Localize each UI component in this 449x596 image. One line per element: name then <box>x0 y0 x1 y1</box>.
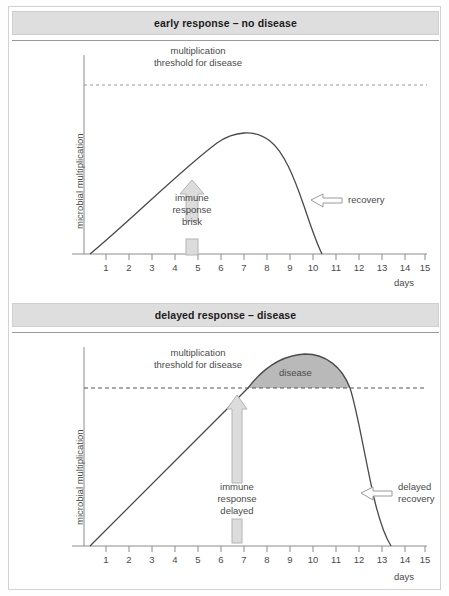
x-tick-marks <box>106 254 425 260</box>
panel-title-bar-early: early response – no disease <box>12 11 439 35</box>
x-tick-marks <box>106 546 425 552</box>
immune-response-caption-delayed: immune response delayed <box>197 481 277 517</box>
y-axis-label-delayed: microbial multiplication <box>74 429 85 525</box>
x-tick-label: 4 <box>168 554 182 565</box>
immune-line3: brisk <box>152 216 232 228</box>
x-tick-label: 2 <box>122 262 136 273</box>
y-axis-label-early: microbial multiplication <box>74 133 85 229</box>
x-tick-label: 10 <box>306 262 320 273</box>
immune-response-arrow-up <box>227 395 247 543</box>
x-tick-label: 5 <box>191 554 205 565</box>
panel-title-delayed: delayed response – disease <box>155 309 297 321</box>
x-tick-label: 2 <box>122 554 136 565</box>
threshold-caption-early: multiplication threshold for disease <box>108 45 288 69</box>
immune-line2: response <box>152 204 232 216</box>
panel-title-bar-delayed: delayed response – disease <box>12 303 439 327</box>
x-tick-label: 13 <box>375 554 389 565</box>
recovery-caption-early: recovery <box>348 194 384 206</box>
x-axis-title-early: days <box>394 277 414 288</box>
threshold-caption-line1: multiplication <box>108 45 288 57</box>
recovery-arrow-left <box>311 194 342 207</box>
x-tick-label: 8 <box>260 262 274 273</box>
threshold-caption-delayed: multiplication threshold for disease <box>108 347 288 371</box>
x-tick-label: 4 <box>168 262 182 273</box>
x-tick-label: 8 <box>260 554 274 565</box>
disease-label: disease <box>279 367 312 379</box>
threshold-caption-line2: threshold for disease <box>108 359 288 371</box>
x-axis-title-delayed: days <box>394 571 414 582</box>
x-tick-label: 9 <box>283 554 297 565</box>
delayed-recovery-line2: recovery <box>398 493 439 505</box>
immune-response-caption-early: immune response brisk <box>152 192 232 228</box>
immune-line1: immune <box>197 481 277 493</box>
delayed-recovery-line1: delayed <box>398 481 439 493</box>
panel-title-early: early response – no disease <box>154 17 297 29</box>
figure-container: early response – no disease <box>0 0 449 596</box>
x-tick-label: 7 <box>237 262 251 273</box>
immune-line3: delayed <box>197 505 277 517</box>
threshold-caption-line2: threshold for disease <box>108 57 288 69</box>
x-tick-label: 15 <box>418 262 432 273</box>
panel-delayed-response: delayed response – disease <box>9 299 442 591</box>
delayed-recovery-arrow-left <box>361 487 392 500</box>
x-tick-label: 7 <box>237 554 251 565</box>
x-tick-label: 13 <box>375 262 389 273</box>
x-tick-label: 11 <box>329 554 343 565</box>
x-tick-label: 12 <box>352 554 366 565</box>
panel-early-response: early response – no disease <box>9 7 442 299</box>
x-tick-label: 9 <box>283 262 297 273</box>
threshold-caption-line1: multiplication <box>108 347 288 359</box>
immune-line1: immune <box>152 192 232 204</box>
x-tick-label: 1 <box>99 554 113 565</box>
plot-area-early: multiplication threshold for disease mic… <box>12 41 439 296</box>
x-tick-label: 14 <box>398 262 412 273</box>
x-tick-label: 12 <box>352 262 366 273</box>
plot-area-delayed: multiplication threshold for disease dis… <box>12 333 439 588</box>
x-tick-label: 5 <box>191 262 205 273</box>
x-tick-label: 11 <box>329 262 343 273</box>
x-tick-label: 10 <box>306 554 320 565</box>
x-tick-label: 14 <box>398 554 412 565</box>
immune-line2: response <box>197 493 277 505</box>
x-tick-label: 3 <box>145 262 159 273</box>
x-tick-label: 15 <box>418 554 432 565</box>
delayed-recovery-caption: delayed recovery <box>398 481 439 505</box>
x-tick-label: 1 <box>99 262 113 273</box>
x-tick-label: 6 <box>214 554 228 565</box>
x-tick-label: 6 <box>214 262 228 273</box>
figure-frame: early response – no disease <box>8 6 441 590</box>
x-tick-label: 3 <box>145 554 159 565</box>
